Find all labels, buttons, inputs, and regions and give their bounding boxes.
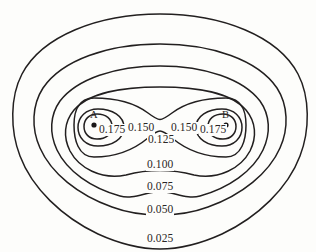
charge-label-a: A [90, 110, 98, 121]
contour-label-0025: 0.025 [146, 233, 174, 245]
contour-label-0050: 0.050 [146, 204, 174, 216]
contour-label-0150-left: 0.150 [127, 122, 155, 134]
contour-label-0175-right: 0.175 [199, 124, 227, 136]
contour-label-0150-right: 0.150 [170, 122, 198, 134]
contour-plot-figure: A B 0.175 0.150 0.150 0.175 0.125 0.100 … [0, 0, 316, 252]
contour-label-0075: 0.075 [146, 181, 174, 193]
charge-marker-a [91, 122, 96, 127]
contour-label-0175-left: 0.175 [98, 124, 126, 136]
charge-label-b: B [222, 110, 229, 121]
contour-label-0125: 0.125 [147, 134, 175, 146]
contour-label-0100: 0.100 [146, 159, 174, 171]
